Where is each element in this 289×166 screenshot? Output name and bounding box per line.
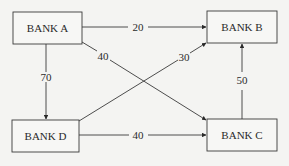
node-label: BANK B (221, 21, 262, 33)
node-bank-b: BANK B (207, 11, 277, 43)
edge-label-a-b: 20 (133, 21, 145, 33)
node-bank-d: BANK D (12, 120, 79, 152)
edge-d-to-b-arrow (190, 43, 206, 53)
node-bank-a: BANK A (13, 12, 82, 44)
edge-label-d-b: 30 (179, 51, 191, 63)
node-label: BANK D (25, 130, 67, 142)
edge-d-to-b (79, 60, 178, 121)
edge-a-to-c-arrow (110, 60, 206, 120)
edge-label-a-d: 70 (41, 71, 53, 83)
node-label: BANK C (221, 129, 262, 141)
edge-a-to-c (82, 42, 97, 51)
edge-label-a-c: 40 (98, 50, 110, 62)
edge-label-c-b: 50 (237, 74, 249, 86)
edge-label-d-c: 40 (133, 129, 145, 141)
node-bank-c: BANK C (207, 119, 277, 151)
node-label: BANK A (27, 22, 68, 34)
bank-flow-diagram: 20 40 70 30 40 50 BANK A BANK B BANK C B… (0, 0, 289, 166)
